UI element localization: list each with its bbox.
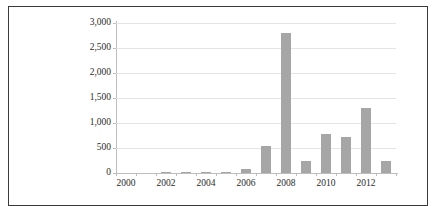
gridline-1500 <box>116 98 396 99</box>
gridline-500 <box>116 148 396 149</box>
bar-2002 <box>161 172 171 173</box>
x-tick-mark-3 <box>176 173 177 176</box>
y-tick-label-3000: 3,000 <box>90 18 111 28</box>
bar-2009 <box>301 161 311 173</box>
x-tick-mark-11 <box>336 173 337 176</box>
x-tick-mark-6 <box>236 173 237 176</box>
x-tick-label-2004: 2004 <box>197 179 216 189</box>
x-tick-mark-13 <box>376 173 377 176</box>
x-tick-mark-4 <box>196 173 197 176</box>
bar-2008 <box>281 33 291 173</box>
x-tick-mark-1 <box>136 173 137 176</box>
x-tick-label-2006: 2006 <box>237 179 256 189</box>
gridline-3000 <box>116 23 396 24</box>
bar-2003 <box>181 172 191 173</box>
x-tick-mark-10 <box>316 173 317 176</box>
bar-chart: 05001,0001,5002,0002,5003,000 2000200220… <box>9 7 427 205</box>
gridline-2500 <box>116 48 396 49</box>
x-tick-label-2010: 2010 <box>317 179 336 189</box>
x-tick-mark-8 <box>276 173 277 176</box>
bar-2013 <box>381 161 391 173</box>
gridline-2000 <box>116 73 396 74</box>
bar-2010 <box>321 134 331 174</box>
x-tick-mark-7 <box>256 173 257 176</box>
y-tick-label-0: 0 <box>106 168 111 178</box>
plot-area <box>116 23 396 173</box>
x-tick-label-2000: 2000 <box>117 179 136 189</box>
bar-2011 <box>341 137 351 174</box>
x-tick-label-2002: 2002 <box>157 179 176 189</box>
x-tick-mark-9 <box>296 173 297 176</box>
y-tick-label-1500: 1,500 <box>90 93 111 103</box>
bar-2012 <box>361 108 371 174</box>
bar-2005 <box>221 172 231 173</box>
bar-2004 <box>201 172 211 173</box>
y-tick-label-2000: 2,000 <box>90 68 111 78</box>
gridline-1000 <box>116 123 396 124</box>
y-tick-label-2500: 2,500 <box>90 43 111 53</box>
x-tick-label-2012: 2012 <box>357 179 376 189</box>
x-tick-mark-0 <box>116 173 117 176</box>
x-tick-mark-2 <box>156 173 157 176</box>
x-tick-label-2008: 2008 <box>277 179 296 189</box>
x-tick-mark-5 <box>216 173 217 176</box>
y-tick-label-500: 500 <box>97 143 111 153</box>
y-axis-tick-labels: 05001,0001,5002,0002,5003,000 <box>49 23 111 173</box>
bar-2006 <box>241 169 251 173</box>
y-tick-label-1000: 1,000 <box>90 118 111 128</box>
chart-figure-frame: 05001,0001,5002,0002,5003,000 2000200220… <box>8 6 428 206</box>
x-tick-mark-14 <box>396 173 397 176</box>
bar-2007 <box>261 146 271 173</box>
x-tick-mark-12 <box>356 173 357 176</box>
